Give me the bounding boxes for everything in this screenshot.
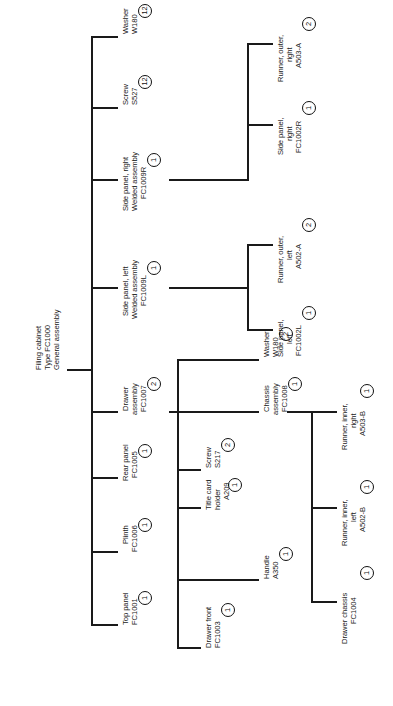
node-title-card-holder-label-line2: holder [213,489,222,510]
node-runner-inner-right-label-line1: Runner, inner, [340,403,349,450]
qty-badge-plinth: 1 [138,518,152,532]
node-rear-panel-label-line1: Rear panel [121,444,130,481]
node-drawer-assembly-label-line3: FC1007 [139,385,148,412]
node-washer-drawer-label-line1: Washer [262,331,271,357]
node-plinth-label-line2: FC1006 [130,525,139,552]
qty-badge-runner-outer-left: 2 [302,218,316,232]
node-side-panel-right-welded-label-line2: Welded assembly [130,152,139,211]
node-runner-inner-left-label-line2: left [349,512,358,522]
node-screw-top-label-line1: Screw [121,84,130,105]
node-screw-drawer-label-line2: S217 [213,450,222,468]
node-drawer-chassis-label-line1: Drawer chassis [340,593,349,644]
node-drawer-assembly-label-line2: assembly [130,383,139,415]
node-washer-top-label-line2: W180 [130,14,139,34]
node-side-panel-right-welded-label-line1: Side panel, right [121,157,130,211]
node-side-panel-right-label-line1: Side panel, [276,118,285,155]
qty-badge-drawer-chassis: 1 [360,566,374,580]
node-root-label-line1: Filing cabinet [34,326,43,370]
qty-badge-runner-inner-left: 1 [360,480,374,494]
qty-badge-side-panel-right: 1 [302,101,316,115]
bom-tree-diagram: Filing cabinet Type FC1000 General assem… [0,0,393,706]
node-rear-panel-label-line2: FC1005 [130,451,139,478]
node-runner-outer-left-label-line1: Runner, outer, [276,236,285,283]
node-side-panel-right-label-line3: FC1002R [294,121,303,153]
node-plinth-label-line1: Plinth [121,525,130,544]
node-runner-outer-left-label-line3: A502-A [294,244,303,269]
node-runner-inner-right-label-line3: A503-B [358,411,367,436]
node-title-card-holder-label-line1: Title card [204,480,213,510]
node-runner-outer-right-label-line2: right [285,47,294,62]
node-side-panel-left-welded-label-line1: Side panel, left [121,267,130,316]
node-drawer-front-label-line2: FC1003 [213,621,222,648]
node-root-label-line2: Type FC1000 [43,325,52,370]
qty-badge-screw-drawer: 2 [221,438,235,452]
node-handle-label-line1: Handle [262,555,271,579]
node-root-label-line3: General assembly [52,310,61,370]
qty-badge-title-card-holder: 1 [228,478,242,492]
qty-badge-washer-top: 12 [138,4,152,18]
node-drawer-chassis-label-line2: FC1004 [349,597,358,624]
node-runner-inner-left-label-line1: Runner, inner, [340,499,349,546]
qty-badge-side-panel-right-welded: 1 [147,153,161,167]
qty-badge-top-panel: 1 [138,591,152,605]
node-side-panel-left-welded-label-line3: FC1009L [139,275,148,306]
node-side-panel-right-welded-label-line3: FC1009R [139,167,148,199]
node-chassis-assembly-label-line1: Chassis [262,385,271,412]
qty-badge-side-panel-left: 1 [302,306,316,320]
node-screw-top-label-line2: S527 [130,87,139,105]
node-runner-outer-left-label-line2: left [285,250,294,260]
node-chassis-assembly-label-line2: assembly [271,383,280,415]
qty-badge-chassis-assembly: 1 [288,377,302,391]
node-handle-label-line2: A350 [271,561,280,579]
node-runner-inner-right-label-line2: right [349,413,358,428]
qty-badge-screw-top: 12 [138,75,152,89]
node-side-panel-right-label-line2: right [285,126,294,141]
node-drawer-front-label-line1: Drawer front [204,607,213,648]
qty-badge-rear-panel: 1 [138,444,152,458]
node-chassis-assembly-label-line3: FC1008 [280,385,289,412]
qty-badge-washer-drawer: 2 [279,327,293,341]
qty-badge-runner-inner-right: 1 [360,384,374,398]
node-runner-inner-left-label-line3: A502-B [358,507,367,532]
node-washer-drawer-label-line2: W180 [271,337,280,357]
node-top-panel-label-line2: FC1001 [130,598,139,625]
node-side-panel-left-welded-label-line2: Welded assembly [130,260,139,319]
node-top-panel-label-line1: Top panel [121,593,130,625]
node-washer-top-label-line1: Washer [121,8,130,34]
node-runner-outer-right-label-line1: Runner, outer, [276,35,285,82]
node-drawer-assembly-label-line1: Drawer [121,387,130,411]
qty-badge-drawer-assembly: 2 [147,377,161,391]
qty-badge-runner-outer-right: 2 [302,17,316,31]
node-screw-drawer-label-line1: Screw [204,447,213,468]
node-side-panel-left-label-line3: FC1002L [294,325,303,356]
qty-badge-side-panel-left-welded: 1 [147,261,161,275]
node-runner-outer-right-label-line3: A503-A [294,43,303,68]
qty-badge-drawer-front: 1 [221,603,235,617]
qty-badge-handle: 1 [279,547,293,561]
